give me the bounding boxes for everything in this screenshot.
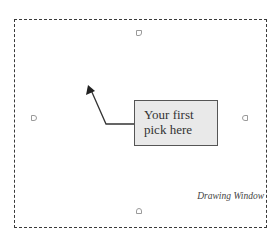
right-grip-handle-icon[interactable] [242, 115, 248, 121]
callout-line-2: pick here [144, 122, 217, 137]
diagram-stage: Your first pick here Drawing Window [0, 0, 277, 237]
callout-box: Your first pick here [134, 100, 218, 146]
drawing-window-label: Drawing Window [197, 191, 264, 201]
callout-line-1: Your first [144, 107, 217, 122]
bottom-grip-handle-icon[interactable] [136, 208, 142, 214]
left-grip-handle-icon[interactable] [31, 115, 37, 121]
top-grip-handle-icon[interactable] [136, 30, 142, 36]
